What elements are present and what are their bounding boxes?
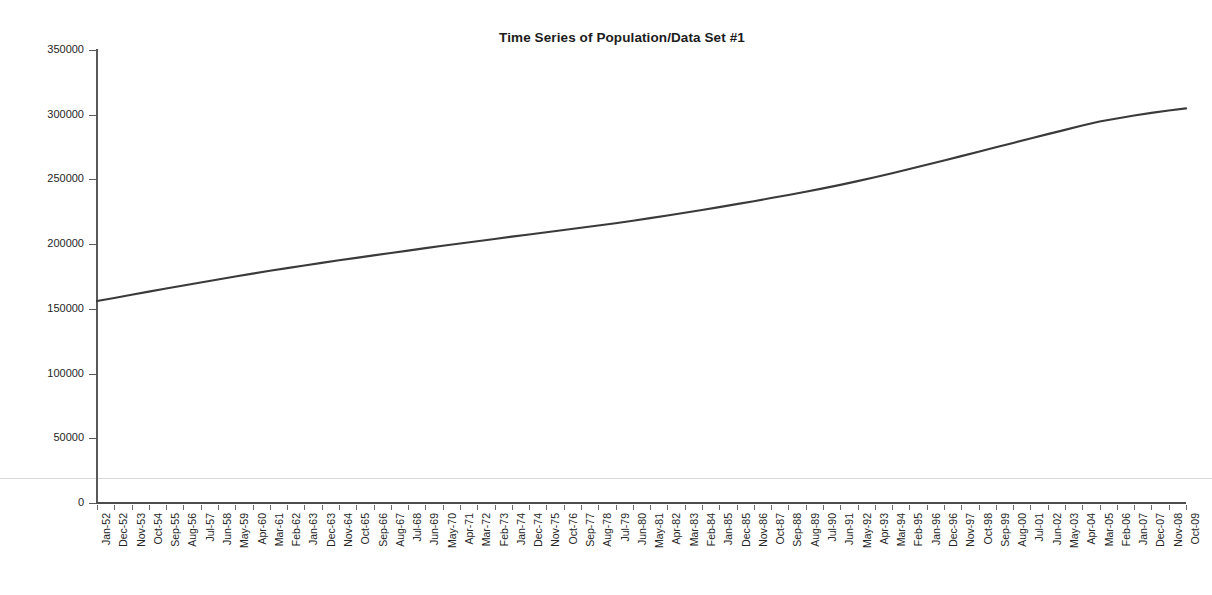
x-tick-label: Oct-65 bbox=[360, 513, 370, 545]
x-tick-mark bbox=[598, 505, 599, 510]
x-tick-label: Oct-98 bbox=[983, 513, 993, 545]
x-tick-label: Mar-61 bbox=[274, 513, 284, 546]
x-tick-mark bbox=[339, 505, 340, 510]
x-tick-mark bbox=[253, 505, 254, 510]
x-tick-mark bbox=[581, 505, 582, 510]
x-tick-mark bbox=[1169, 505, 1170, 510]
x-tick-mark bbox=[201, 505, 202, 510]
x-tick-mark bbox=[719, 505, 720, 510]
x-tick-mark bbox=[840, 505, 841, 510]
x-tick-mark bbox=[495, 505, 496, 510]
x-tick-label: Jan-52 bbox=[101, 513, 111, 545]
x-tick-mark bbox=[1117, 505, 1118, 510]
x-tick-label: Sep-55 bbox=[170, 513, 180, 547]
x-tick-mark bbox=[685, 505, 686, 510]
x-tick-mark bbox=[1013, 505, 1014, 510]
x-tick-label: May-03 bbox=[1069, 513, 1079, 548]
y-tick-label: 250000 bbox=[14, 173, 84, 184]
x-tick-mark bbox=[391, 505, 392, 510]
x-tick-label: Jun-02 bbox=[1052, 513, 1062, 545]
x-tick-label: Jun-80 bbox=[637, 513, 647, 545]
y-tick-label: 300000 bbox=[14, 109, 84, 120]
x-tick-mark bbox=[529, 505, 530, 510]
x-tick-label: Jun-91 bbox=[844, 513, 854, 545]
x-tick-label: May-81 bbox=[654, 513, 664, 548]
x-tick-label: Feb-84 bbox=[706, 513, 716, 546]
x-tick-label: Aug-89 bbox=[810, 513, 820, 547]
x-tick-mark bbox=[979, 505, 980, 510]
y-tick-mark bbox=[89, 50, 97, 51]
x-tick-mark bbox=[564, 505, 565, 510]
x-tick-label: Apr-04 bbox=[1086, 513, 1096, 545]
y-tick-mark bbox=[89, 244, 97, 245]
x-tick-mark bbox=[1186, 505, 1187, 510]
chart-title: Time Series of Population/Data Set #1 bbox=[0, 30, 1212, 45]
x-tick-mark bbox=[650, 505, 651, 510]
x-tick-label: Jun-69 bbox=[429, 513, 439, 545]
x-tick-mark bbox=[616, 505, 617, 510]
x-tick-mark bbox=[270, 505, 271, 510]
x-tick-label: Mar-83 bbox=[689, 513, 699, 546]
y-tick-label: 200000 bbox=[14, 238, 84, 249]
x-tick-label: Dec-07 bbox=[1155, 513, 1165, 547]
x-tick-label: Sep-77 bbox=[585, 513, 595, 547]
x-tick-label: Jul-01 bbox=[1034, 513, 1044, 542]
x-tick-label: Jan-85 bbox=[723, 513, 733, 545]
x-tick-mark bbox=[166, 505, 167, 510]
x-tick-label: Sep-99 bbox=[1000, 513, 1010, 547]
x-tick-label: Apr-60 bbox=[257, 513, 267, 545]
x-tick-label: Jan-74 bbox=[516, 513, 526, 545]
x-tick-mark bbox=[183, 505, 184, 510]
x-tick-mark bbox=[944, 505, 945, 510]
x-tick-label: Aug-67 bbox=[395, 513, 405, 547]
x-tick-mark bbox=[754, 505, 755, 510]
y-tick-label: 150000 bbox=[14, 303, 84, 314]
x-tick-label: Feb-73 bbox=[499, 513, 509, 546]
y-tick-mark bbox=[89, 503, 97, 504]
x-tick-label: Dec-63 bbox=[326, 513, 336, 547]
x-tick-label: Mar-05 bbox=[1104, 513, 1114, 546]
x-tick-mark bbox=[996, 505, 997, 510]
x-tick-label: Nov-53 bbox=[136, 513, 146, 547]
y-tick-label: 350000 bbox=[14, 44, 84, 55]
x-tick-mark bbox=[287, 505, 288, 510]
x-tick-label: Jan-96 bbox=[931, 513, 941, 545]
x-tick-mark bbox=[546, 505, 547, 510]
x-tick-mark bbox=[737, 505, 738, 510]
x-tick-mark bbox=[1134, 505, 1135, 510]
x-tick-label: Feb-95 bbox=[913, 513, 923, 546]
x-tick-mark bbox=[875, 505, 876, 510]
x-tick-label: Nov-08 bbox=[1173, 513, 1183, 547]
x-tick-label: Oct-54 bbox=[153, 513, 163, 545]
x-tick-mark bbox=[927, 505, 928, 510]
x-tick-label: Sep-66 bbox=[378, 513, 388, 547]
x-tick-label: Nov-97 bbox=[965, 513, 975, 547]
x-tick-label: Aug-56 bbox=[187, 513, 197, 547]
x-tick-label: Oct-87 bbox=[775, 513, 785, 545]
y-tick-mark bbox=[89, 438, 97, 439]
x-tick-mark bbox=[512, 505, 513, 510]
x-tick-mark bbox=[771, 505, 772, 510]
x-tick-label: Nov-86 bbox=[758, 513, 768, 547]
x-tick-label: Apr-93 bbox=[879, 513, 889, 545]
x-tick-label: Mar-94 bbox=[896, 513, 906, 546]
x-tick-mark bbox=[1030, 505, 1031, 510]
x-tick-mark bbox=[961, 505, 962, 510]
x-tick-mark bbox=[858, 505, 859, 510]
x-tick-label: Aug-00 bbox=[1017, 513, 1027, 547]
x-tick-mark bbox=[1100, 505, 1101, 510]
x-tick-mark bbox=[806, 505, 807, 510]
x-tick-label: Aug-78 bbox=[602, 513, 612, 547]
y-tick-label: 50000 bbox=[14, 432, 84, 443]
x-axis-line bbox=[96, 502, 1186, 504]
x-tick-mark bbox=[149, 505, 150, 510]
x-tick-label: Dec-74 bbox=[533, 513, 543, 547]
x-tick-label: Jan-63 bbox=[308, 513, 318, 545]
x-tick-mark bbox=[788, 505, 789, 510]
x-tick-label: Dec-96 bbox=[948, 513, 958, 547]
x-tick-mark bbox=[425, 505, 426, 510]
x-tick-label: Jul-79 bbox=[620, 513, 630, 542]
x-tick-mark bbox=[218, 505, 219, 510]
y-tick-mark bbox=[89, 309, 97, 310]
x-tick-mark bbox=[443, 505, 444, 510]
